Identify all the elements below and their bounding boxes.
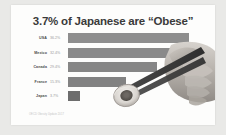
title-rest: of Japanese are “Obese” (58, 15, 193, 27)
chart-row: USA36.2% (11, 33, 215, 43)
bar-value-label: 29.4% (50, 62, 66, 72)
bar-value-label: 36.2% (50, 33, 66, 43)
infographic-root: 3.7% of Japanese are “Obese” USA36.2%Mex… (0, 0, 226, 135)
bar-label: Japan (17, 91, 47, 101)
chart-row: Canada29.4% (11, 62, 215, 72)
bar-value-label: 3.7% (50, 91, 66, 101)
bar (68, 77, 126, 87)
chart-source-note: OECD Obesity Update 2017 (29, 113, 64, 116)
bar-label: Canada (17, 62, 47, 72)
bar-chart: USA36.2%Mexico32.4%Canada29.4%France15.3… (11, 33, 215, 107)
bar (68, 62, 157, 72)
chart-row: Mexico32.4% (11, 48, 215, 58)
bar-value-label: 15.3% (50, 77, 66, 87)
bar-label: France (17, 77, 47, 87)
title-percent: 3.7% (33, 15, 58, 27)
bar-value-label: 32.4% (50, 48, 66, 58)
page-title: 3.7% of Japanese are “Obese” (11, 15, 215, 27)
bar (68, 91, 80, 101)
chart-row: France15.3% (11, 77, 215, 87)
bar-label: Mexico (17, 48, 47, 58)
bar-label: USA (17, 33, 47, 43)
infographic-card: 3.7% of Japanese are “Obese” USA36.2%Mex… (11, 5, 215, 125)
bar (68, 48, 171, 58)
bar (68, 33, 189, 43)
chart-row: Japan3.7% (11, 91, 215, 101)
